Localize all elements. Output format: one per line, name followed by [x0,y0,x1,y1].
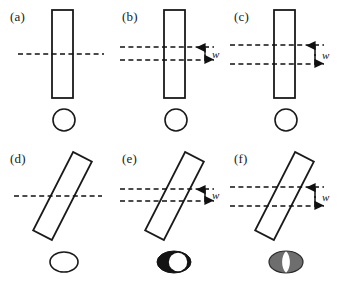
panel-c-graphic: w [224,0,336,142]
panel-d: (d) [0,142,112,284]
panel-f: (f) w [224,142,336,284]
figure-panel-grid: (a) (b) w ( [0,0,337,284]
beam-spot [269,251,303,273]
w-label: w [322,49,330,61]
panel-b-graphic: w [112,0,224,142]
beam-spot [157,251,191,273]
beam-spot [50,252,78,272]
w-label: w [322,191,330,203]
w-label: w [212,189,220,201]
beam-spot-inner-lens [169,253,187,271]
beam-spot [165,109,187,131]
aperture-rectangle [274,10,295,98]
panel-e: (e) w [112,142,224,284]
aperture-rectangle [145,152,204,240]
beam-spot [275,109,297,131]
panel-f-graphic: w [224,142,336,284]
panel-d-graphic [0,142,112,284]
panel-c: (c) w [224,0,336,142]
beam-spot [53,109,75,131]
panel-a-graphic [0,0,112,142]
panel-a: (a) [0,0,112,142]
w-label: w [212,48,220,60]
aperture-rectangle [255,152,314,240]
panel-b: (b) w [112,0,224,142]
aperture-rectangle [164,10,185,98]
panel-e-graphic: w [112,142,224,284]
